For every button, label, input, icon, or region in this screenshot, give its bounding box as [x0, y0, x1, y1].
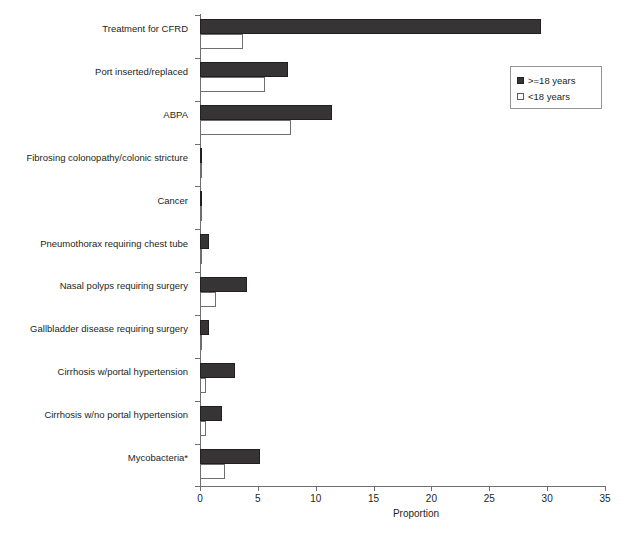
- bar-child: [200, 163, 202, 178]
- y-axis-tick: [195, 186, 200, 187]
- bar-adult: [200, 320, 209, 335]
- legend: >=18 years <18 years: [510, 66, 602, 109]
- y-axis-tick-label: Cirrhosis w/no portal hypertension: [44, 409, 188, 420]
- y-axis-tick-label: Mycobacteria*: [128, 452, 188, 463]
- bar-child: [200, 292, 216, 307]
- y-axis-tick: [195, 444, 200, 445]
- x-axis-tick-label: 35: [599, 493, 610, 505]
- x-axis-tick-label: 5: [255, 493, 261, 505]
- bar-child: [200, 77, 265, 92]
- legend-label-adult: >=18 years: [528, 74, 576, 87]
- y-axis-tick-label: Cancer: [157, 194, 188, 205]
- bar-child: [200, 335, 202, 350]
- bar-adult: [200, 449, 260, 464]
- y-axis-tick: [195, 401, 200, 402]
- x-axis-tick: [489, 486, 490, 491]
- y-axis-tick-label: ABPA: [163, 108, 188, 119]
- x-axis-tick-label: 30: [542, 493, 553, 505]
- y-axis-tick: [195, 101, 200, 102]
- bar-child: [200, 249, 202, 264]
- x-axis-tick-label: 25: [484, 493, 495, 505]
- figure-chart: Treatment for CFRDPort inserted/replaced…: [0, 0, 632, 540]
- bar-adult: [200, 105, 332, 120]
- legend-swatch-open-white-square-icon: [517, 93, 524, 100]
- x-axis-tick-label: 10: [310, 493, 321, 505]
- y-axis-tick-label: Port inserted/replaced: [95, 65, 188, 76]
- bar-child: [200, 206, 202, 221]
- y-axis-tick: [195, 358, 200, 359]
- y-axis-tick-label: Pneumothorax requiring chest tube: [40, 237, 188, 248]
- y-axis-tick-label: Fibrosing colonopathy/colonic stricture: [26, 151, 188, 162]
- bar-adult: [200, 62, 288, 77]
- y-axis-tick: [195, 486, 200, 487]
- x-axis-title: Proportion: [0, 508, 632, 519]
- x-axis-tick: [547, 486, 548, 491]
- legend-item-child: <18 years: [517, 90, 595, 103]
- legend-swatch-filled-dark-square-icon: [517, 77, 524, 84]
- bar-child: [200, 34, 243, 49]
- bar-adult: [200, 191, 202, 206]
- x-axis-line: 05101520253035: [200, 486, 606, 487]
- y-axis-labels: Treatment for CFRDPort inserted/replaced…: [0, 0, 194, 540]
- bar-adult: [200, 277, 247, 292]
- x-axis-tick-label: 0: [197, 493, 203, 505]
- y-axis-tick-label: Nasal polyps requiring surgery: [60, 280, 188, 291]
- bar-child: [200, 421, 206, 436]
- y-axis-tick-label: Cirrhosis w/portal hypertension: [58, 366, 188, 377]
- bar-child: [200, 378, 206, 393]
- bar-adult: [200, 363, 235, 378]
- legend-label-child: <18 years: [528, 90, 570, 103]
- x-axis-tick: [258, 486, 259, 491]
- legend-item-adult: >=18 years: [517, 74, 595, 87]
- y-axis-tick: [195, 15, 200, 16]
- y-axis-tick: [195, 272, 200, 273]
- y-axis-tick: [195, 144, 200, 145]
- x-axis-tick-label: 15: [368, 493, 379, 505]
- x-axis-tick: [431, 486, 432, 491]
- x-axis-tick: [605, 486, 606, 491]
- x-axis-tick: [200, 486, 201, 491]
- bar-adult: [200, 148, 202, 163]
- x-axis-tick: [374, 486, 375, 491]
- y-axis-tick: [195, 315, 200, 316]
- bar-adult: [200, 234, 209, 249]
- bar-child: [200, 120, 291, 135]
- x-axis-tick: [316, 486, 317, 491]
- bar-adult: [200, 19, 541, 34]
- y-axis-tick: [195, 229, 200, 230]
- y-axis-tick-label: Gallbladder disease requiring surgery: [30, 323, 188, 334]
- y-axis-tick: [195, 58, 200, 59]
- x-axis-title-text: Proportion: [393, 508, 439, 519]
- y-axis-tick-label: Treatment for CFRD: [102, 22, 188, 33]
- bar-adult: [200, 406, 222, 421]
- bar-child: [200, 464, 225, 479]
- x-axis-tick-label: 20: [426, 493, 437, 505]
